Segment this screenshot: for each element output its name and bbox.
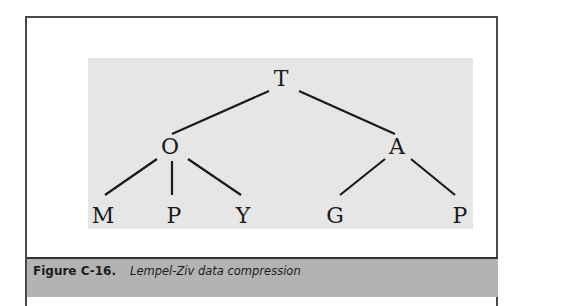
tree-node-p1: P (167, 205, 182, 227)
tree-node-t: T (274, 68, 289, 90)
figure-caption: Figure C-16.Lempel-Ziv data compression (33, 264, 301, 278)
tree-edge-t-a (299, 91, 395, 134)
tree-edge-a-p2 (411, 159, 455, 195)
tree-node-a: A (389, 136, 405, 158)
tree-node-p2: P (453, 205, 468, 227)
tree-edge-t-o (172, 91, 269, 134)
tree-node-g: G (326, 205, 344, 227)
tree-edge-a-g (340, 159, 385, 195)
tree-node-o: O (161, 136, 179, 158)
tree-edge-o-m (105, 159, 157, 195)
tree-node-m: M (92, 205, 115, 227)
tree-node-y: Y (236, 205, 251, 227)
figure-title: Lempel-Ziv data compression (130, 264, 301, 278)
figure-label: Figure C-16. (33, 264, 116, 278)
tree-edge-o-y (188, 159, 241, 195)
